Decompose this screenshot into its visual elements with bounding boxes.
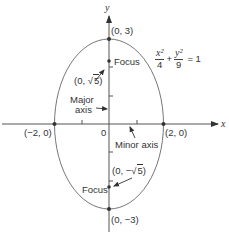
major-axis-label-line2: axis bbox=[75, 105, 92, 115]
vertex-right-label: (2, 0) bbox=[165, 128, 187, 138]
minor-axis-label: Minor axis bbox=[115, 140, 158, 150]
focus-lower-label: Focus bbox=[82, 185, 108, 195]
vertex-bottom-label: (0, −3) bbox=[111, 215, 139, 225]
origin-label: 0 bbox=[101, 128, 106, 138]
focus-lower-coords: (0, −√5) bbox=[112, 166, 146, 176]
vertex-left-label: (−2, 0) bbox=[24, 128, 52, 138]
y-axis-label: y bbox=[105, 3, 109, 13]
vertex-top-label: (0, 3) bbox=[111, 26, 133, 36]
x-axis-label: x bbox=[221, 119, 225, 129]
ellipse-equation: x²4 + y²9 = 1 bbox=[153, 48, 201, 69]
minor-axis-pointer bbox=[130, 127, 135, 138]
focus-upper-coords: (0, √5) bbox=[74, 76, 102, 86]
major-axis-pointer bbox=[96, 108, 107, 109]
focus-lower-pointer bbox=[114, 178, 132, 186]
focus-upper-label: Focus bbox=[114, 57, 140, 67]
